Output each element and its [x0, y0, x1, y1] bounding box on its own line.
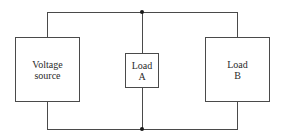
load-b-label-line1: Load: [227, 59, 248, 70]
load-a-bottom-lead: [142, 87, 143, 130]
voltage-source-bottom-lead: [47, 101, 48, 130]
load-a-top-lead: [142, 12, 143, 54]
voltage-source-label-line2: source: [34, 70, 60, 81]
voltage-source-block: Voltage source: [15, 37, 80, 102]
load-b-top-lead: [237, 12, 238, 38]
top-junction-dot: [140, 10, 144, 14]
voltage-source-top-lead: [47, 12, 48, 38]
load-b-block: Load B: [205, 37, 270, 102]
load-b-label-line2: B: [234, 70, 241, 81]
load-a-block: Load A: [125, 53, 159, 88]
load-a-label-line2: A: [138, 71, 145, 82]
load-a-label-line1: Load: [132, 60, 153, 71]
voltage-source-label-line1: Voltage: [32, 59, 62, 70]
load-b-bottom-lead: [237, 101, 238, 130]
bottom-junction-dot: [140, 127, 144, 131]
